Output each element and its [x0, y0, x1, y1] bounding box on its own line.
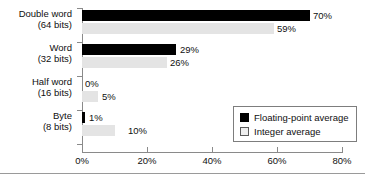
- bar-value-integer-byte: 10%: [128, 125, 147, 136]
- bar-integer-byte: [82, 125, 115, 136]
- category-label-half-word: Half word (16 bits): [0, 76, 72, 98]
- legend-item-integer: Integer average: [240, 125, 321, 138]
- x-axis-tick: [277, 147, 278, 153]
- bar-floating-point-byte: [82, 112, 85, 123]
- category-label-line1: Byte: [0, 110, 72, 121]
- category-label-line1: Half word: [0, 76, 72, 87]
- bar-value-floating-point-word: 29%: [180, 44, 199, 55]
- bar-integer-half-word: [82, 91, 98, 102]
- x-axis-tick: [147, 147, 148, 153]
- bar-value-integer-word: 26%: [170, 57, 189, 68]
- bar-group-half-word: 0% 5%: [82, 78, 342, 106]
- bar-group-double-word: 70% 59%: [82, 10, 342, 38]
- y-axis-tick: [77, 144, 82, 145]
- legend-label: Floating-point average: [254, 112, 349, 123]
- bar-floating-point-double-word: [82, 10, 310, 21]
- x-axis-tick-label-60: 60%: [267, 155, 286, 166]
- bar-integer-word: [82, 57, 167, 68]
- bottom-divider: [0, 173, 365, 174]
- legend-label: Integer average: [254, 126, 321, 137]
- x-axis-tick-label-20: 20%: [137, 155, 156, 166]
- category-label-line2: (8 bits): [0, 121, 72, 132]
- x-axis-tick-label-0: 0%: [75, 155, 89, 166]
- legend-swatch-icon: [240, 113, 249, 122]
- bar-integer-double-word: [82, 23, 274, 34]
- category-label-line2: (64 bits): [0, 19, 72, 30]
- legend-item-floating-point: Floating-point average: [240, 111, 349, 124]
- chart-legend: Floating-point average Integer average: [233, 106, 357, 142]
- category-label-line2: (32 bits): [0, 53, 72, 64]
- bar-value-integer-half-word: 5%: [102, 91, 116, 102]
- x-axis-tick: [212, 147, 213, 153]
- legend-swatch-icon: [240, 127, 249, 136]
- x-axis-tick: [82, 147, 83, 153]
- bar-value-floating-point-byte: 1%: [89, 112, 103, 123]
- x-axis-tick-label-40: 40%: [202, 155, 221, 166]
- category-label-byte: Byte (8 bits): [0, 110, 72, 132]
- bar-value-floating-point-half-word: 0%: [85, 78, 99, 89]
- category-label-line2: (16 bits): [0, 87, 72, 98]
- category-label-word: Word (32 bits): [0, 42, 72, 64]
- category-label-line1: Word: [0, 42, 72, 53]
- category-axis-labels: Double word (64 bits) Word (32 bits) Hal…: [0, 8, 74, 144]
- bar-group-word: 29% 26%: [82, 44, 342, 72]
- bar-value-floating-point-double-word: 70%: [313, 10, 332, 21]
- bar-value-integer-double-word: 59%: [277, 23, 296, 34]
- bar-chart: Double word (64 bits) Word (32 bits) Hal…: [0, 0, 365, 180]
- category-label-double-word: Double word (64 bits): [0, 8, 72, 30]
- x-axis-tick: [342, 147, 343, 153]
- x-axis-tick-label-80: 80%: [332, 155, 351, 166]
- bar-floating-point-word: [82, 44, 176, 55]
- category-label-line1: Double word: [0, 8, 72, 19]
